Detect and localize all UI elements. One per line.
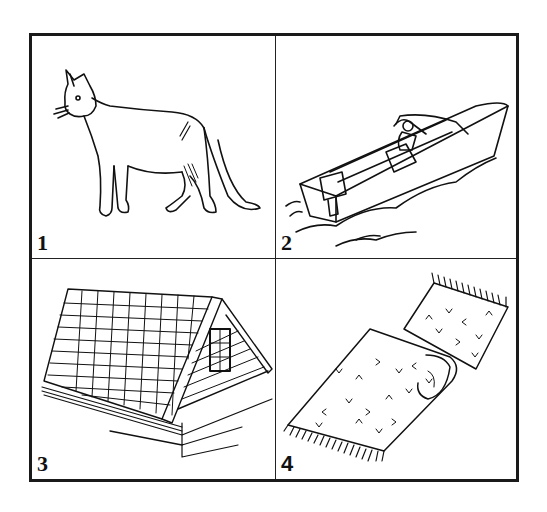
rug-illustration (276, 259, 516, 479)
picture-grid: 1 2 (29, 33, 519, 482)
panel-roof: 3 (32, 259, 275, 479)
boat-illustration (276, 36, 516, 258)
cat-illustration (32, 36, 275, 258)
panel-rug: 4 (276, 259, 516, 479)
panel-boat: 2 (276, 36, 516, 258)
panel-cat: 1 (32, 36, 275, 258)
panel-number: 3 (37, 451, 48, 477)
roof-illustration (32, 259, 275, 479)
panel-number: 4 (281, 451, 293, 477)
panel-number: 1 (37, 230, 48, 256)
panel-number: 2 (281, 230, 292, 256)
